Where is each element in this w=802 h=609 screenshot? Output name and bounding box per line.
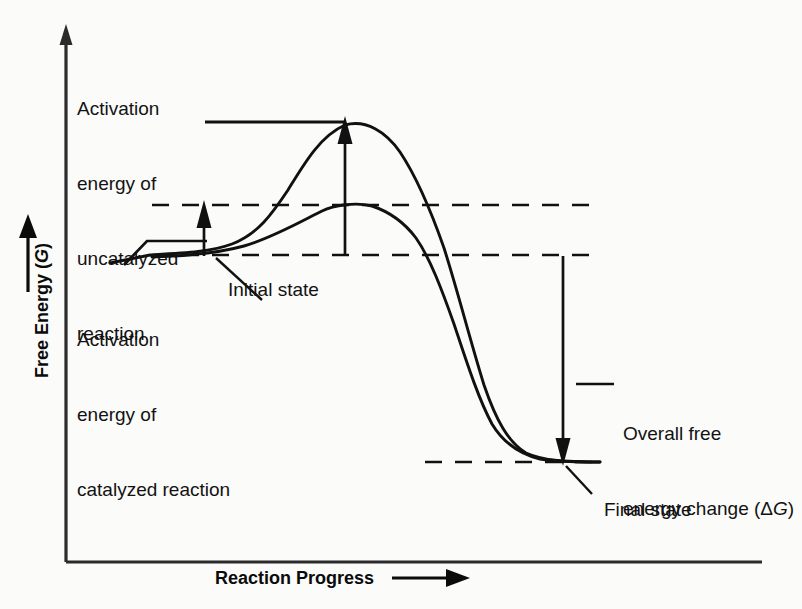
energy-diagram-figure: Activation energy of uncatalyzed reactio… [0, 0, 802, 609]
arrowhead-right-icon [446, 569, 470, 587]
delta-g-symbol: G [773, 498, 788, 519]
label-line: energy of [77, 171, 178, 196]
overall-free-energy-change-arrow [556, 256, 571, 466]
label-initial-state: Initial state [228, 277, 319, 302]
label-line: Activation [77, 327, 230, 352]
label-line: energy change (ΔG) [623, 496, 794, 521]
activation-energy-uncatalyzed-arrow [338, 116, 353, 255]
label-line: Overall free [623, 421, 794, 446]
y-axis-symbol: G [32, 249, 52, 263]
label-overall-free-energy-change: Overall free energy change (ΔG) [623, 371, 794, 571]
label-line: Activation [77, 96, 178, 121]
label-line: uncatalyzed [77, 246, 178, 271]
label-text: ) [788, 498, 794, 519]
label-line: energy of [77, 402, 230, 427]
arrowhead-up-icon [338, 116, 353, 144]
y-axis-title-tail: ) [32, 243, 52, 249]
activation-energy-catalyzed-arrow [197, 200, 212, 256]
x-axis-title-arrow [392, 569, 470, 587]
x-axis-title: Reaction Progress [215, 568, 374, 589]
label-activation-energy-catalyzed: Activation energy of catalyzed reaction [77, 277, 230, 552]
label-line: catalyzed reaction [77, 477, 230, 502]
final-state-leader [566, 466, 592, 494]
y-axis-arrow-icon [60, 24, 73, 45]
label-text: energy change (Δ [623, 498, 773, 519]
y-axis-title-text: Free Energy ( [32, 263, 52, 378]
y-axis-title: Free Energy (G) [32, 211, 53, 411]
